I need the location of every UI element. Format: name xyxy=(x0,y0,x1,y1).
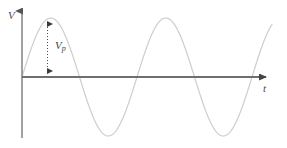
y-axis-label: V xyxy=(8,10,15,21)
peak-voltage-label-main: V xyxy=(55,39,62,51)
x-axis-label: t xyxy=(263,83,266,94)
waveform-figure: V t Vp xyxy=(0,0,287,148)
peak-voltage-label-subscript: p xyxy=(62,44,66,53)
waveform-canvas xyxy=(0,0,287,148)
peak-voltage-label: Vp xyxy=(55,40,66,53)
